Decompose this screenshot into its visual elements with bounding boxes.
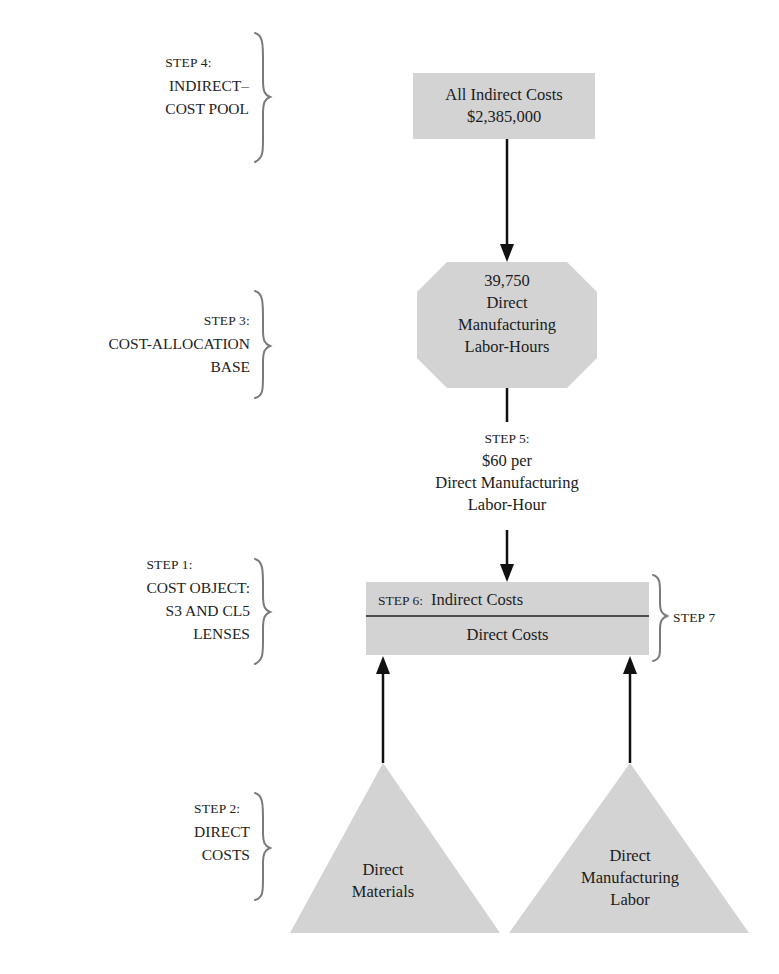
allocation-base-line-3: Labor-Hours bbox=[417, 336, 597, 358]
step7-label: STEP 7 bbox=[673, 606, 715, 629]
step3-number: STEP 3: bbox=[108, 309, 250, 332]
direct-materials-text: Direct Materials bbox=[313, 859, 453, 903]
allocation-base-line-2: Manufacturing bbox=[417, 314, 597, 336]
step2-line-1: DIRECT bbox=[194, 820, 250, 843]
arrowhead-materials bbox=[376, 656, 390, 674]
diagram-canvas bbox=[0, 0, 779, 974]
step5-line-1: Direct Manufacturing bbox=[397, 472, 617, 494]
direct-labor-text: Direct Manufacturing Labor bbox=[560, 845, 700, 911]
direct-materials-triangle bbox=[290, 763, 500, 933]
brace-step4 bbox=[255, 33, 270, 162]
step1-line-1: COST OBJECT: bbox=[146, 576, 250, 599]
step2-line-2: COSTS bbox=[194, 843, 250, 866]
step4-label: STEP 4: INDIRECT– COST POOL bbox=[165, 51, 249, 120]
step3-line-1: COST-ALLOCATION bbox=[108, 332, 250, 355]
brace-step1 bbox=[255, 559, 270, 664]
indirect-cost-pool-text: All Indirect Costs $2,385,000 bbox=[413, 84, 595, 128]
indirect-cost-pool-title: All Indirect Costs bbox=[413, 84, 595, 106]
step4-line-1: INDIRECT– bbox=[165, 74, 249, 97]
brace-step7 bbox=[653, 575, 667, 661]
step3-line-2: BASE bbox=[108, 355, 250, 378]
allocation-base-text: 39,750 Direct Manufacturing Labor-Hours bbox=[417, 270, 597, 358]
cost-object-direct-row: Direct Costs bbox=[366, 624, 649, 646]
step7-number: STEP 7 bbox=[673, 606, 715, 629]
step1-number: STEP 1: bbox=[146, 553, 250, 576]
step1-line-2: S3 AND CL5 bbox=[146, 599, 250, 622]
cost-object-indirect-label: Indirect Costs bbox=[431, 590, 523, 609]
direct-labor-line-3: Labor bbox=[560, 889, 700, 911]
step3-label: STEP 3: COST-ALLOCATION BASE bbox=[108, 309, 250, 378]
step4-number: STEP 4: bbox=[165, 51, 249, 74]
arrowhead-pool-to-base bbox=[500, 244, 514, 262]
step5-rate-value: $60 per bbox=[397, 450, 617, 472]
direct-labor-line-1: Direct bbox=[560, 845, 700, 867]
indirect-cost-pool-amount: $2,385,000 bbox=[413, 106, 595, 128]
step4-line-2: COST POOL bbox=[165, 97, 249, 120]
arrowhead-rate-to-cost-object bbox=[500, 564, 514, 582]
step5-line-2: Labor-Hour bbox=[397, 494, 617, 516]
step1-line-3: LENSES bbox=[146, 622, 250, 645]
brace-step3 bbox=[255, 291, 270, 398]
step5-number: STEP 5: bbox=[397, 428, 617, 450]
direct-materials-line-2: Materials bbox=[313, 881, 453, 903]
cost-object-direct-label: Direct Costs bbox=[366, 624, 649, 646]
direct-materials-line-1: Direct bbox=[313, 859, 453, 881]
allocation-base-quantity: 39,750 bbox=[417, 270, 597, 292]
cost-object-indirect-row: STEP 6: Indirect Costs bbox=[378, 589, 523, 612]
step2-label: STEP 2: DIRECT COSTS bbox=[194, 797, 250, 866]
step1-label: STEP 1: COST OBJECT: S3 AND CL5 LENSES bbox=[146, 553, 250, 645]
step2-number: STEP 2: bbox=[194, 797, 250, 820]
allocation-base-line-1: Direct bbox=[417, 292, 597, 314]
arrowhead-labor bbox=[623, 656, 637, 674]
step6-number: STEP 6: bbox=[378, 593, 423, 608]
direct-labor-line-2: Manufacturing bbox=[560, 867, 700, 889]
step5-rate-text: STEP 5: $60 per Direct Manufacturing Lab… bbox=[397, 428, 617, 516]
brace-step2 bbox=[255, 793, 270, 900]
